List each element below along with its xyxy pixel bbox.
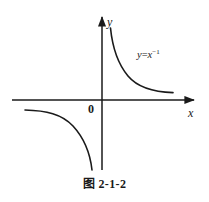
curve-equation-label: y=x−1 [137,50,160,61]
curve-negative-branch [25,110,92,170]
origin-label: 0 [88,103,94,115]
y-axis-label: y [107,16,112,28]
figure-container: y x 0 y=x−1 图 2-1-2 [0,0,209,202]
figure-caption: 图 2-1-2 [0,178,209,191]
x-axis-label: x [188,107,193,119]
curve-label-exponent: −1 [152,48,159,56]
hyperbola-plot [0,0,209,202]
